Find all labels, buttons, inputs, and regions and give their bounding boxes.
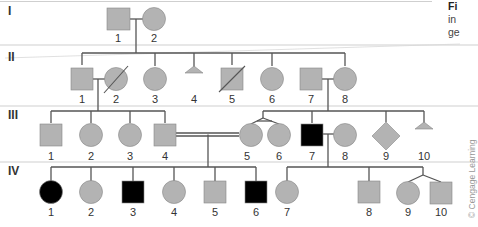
individual-II-6-female — [261, 68, 284, 91]
label-II-3: 3 — [152, 93, 158, 105]
label-II-4: 4 — [191, 93, 197, 105]
label-I-2: 2 — [151, 32, 157, 44]
label-IV-2: 2 — [88, 206, 94, 218]
individual-II-7-male — [300, 68, 322, 90]
label-II-8: 8 — [342, 93, 348, 105]
label-IV-4: 4 — [171, 206, 177, 218]
individual-IV-10-male-twin — [430, 182, 452, 204]
individual-III-10-miscarriage-triangle — [415, 122, 433, 129]
label-III-7: 7 — [309, 150, 315, 162]
individual-III-7-male-affected — [301, 124, 323, 146]
individual-IV-2-female — [80, 181, 103, 204]
individual-IV-8-male — [358, 181, 380, 203]
individual-IV-6-male-affected — [245, 181, 267, 203]
label-I-1: 1 — [115, 32, 121, 44]
individual-III-5-female-twin — [240, 124, 263, 147]
gen-label-III: III — [8, 108, 18, 122]
pedigree-diagram: I II III IV — [0, 0, 478, 227]
label-IV-9: 9 — [405, 206, 411, 218]
label-IV-7: 7 — [284, 206, 290, 218]
gen-label-IV: IV — [8, 164, 19, 178]
individual-III-9-unknown-sex-diamond — [372, 122, 400, 150]
individual-II-8-female — [334, 68, 357, 91]
individual-IV-7-female — [276, 181, 299, 204]
label-IV-8: 8 — [366, 206, 372, 218]
copyright-credit: © Cengage Learning — [467, 139, 477, 218]
caption-line-2: in — [448, 13, 460, 26]
label-II-1: 1 — [79, 93, 85, 105]
gen-label-I: I — [8, 4, 11, 18]
gen-label-II: II — [8, 50, 15, 64]
label-II-6: 6 — [269, 93, 275, 105]
label-IV-6: 6 — [253, 206, 259, 218]
individual-II-4-miscarriage-triangle — [185, 66, 203, 73]
individual-IV-1-female-affected — [40, 181, 63, 204]
label-III-6: 6 — [276, 150, 282, 162]
gen-II-individuals — [71, 66, 357, 93]
individual-III-1-male — [40, 124, 62, 146]
individual-IV-4-female — [163, 181, 186, 204]
figure-caption-fragment: Fi in ge — [448, 0, 460, 39]
label-II-2: 2 — [113, 93, 119, 105]
label-III-1: 1 — [48, 150, 54, 162]
label-IV-5: 5 — [212, 206, 218, 218]
individual-I-2-female — [143, 8, 166, 31]
label-IV-3: 3 — [130, 206, 136, 218]
individual-IV-3-male-affected — [122, 181, 144, 203]
label-III-9: 9 — [383, 150, 389, 162]
individual-IV-5-male — [204, 181, 226, 203]
label-III-5: 5 — [244, 150, 250, 162]
individual-III-8-female — [334, 124, 357, 147]
label-II-5: 5 — [229, 93, 235, 105]
individual-III-6-female-twin — [268, 124, 291, 147]
label-IV-10: 10 — [435, 206, 447, 218]
label-III-8: 8 — [342, 150, 348, 162]
individual-I-1-male — [107, 8, 130, 30]
caption-line-3: ge — [448, 26, 460, 39]
label-III-10: 10 — [418, 150, 430, 162]
gen-IV-individuals — [40, 181, 453, 205]
individual-III-4-male — [154, 124, 176, 146]
individual-III-2-female — [80, 124, 103, 147]
label-III-4: 4 — [162, 150, 168, 162]
individual-III-3-female — [119, 124, 142, 147]
label-III-3: 3 — [127, 150, 133, 162]
label-III-2: 2 — [88, 150, 94, 162]
caption-line-1: Fi — [448, 0, 457, 12]
individual-II-1-male — [71, 68, 93, 90]
individual-IV-9-female-twin — [397, 182, 420, 205]
label-IV-1: 1 — [48, 206, 54, 218]
individual-II-3-female — [144, 68, 167, 91]
label-II-7: 7 — [308, 93, 314, 105]
